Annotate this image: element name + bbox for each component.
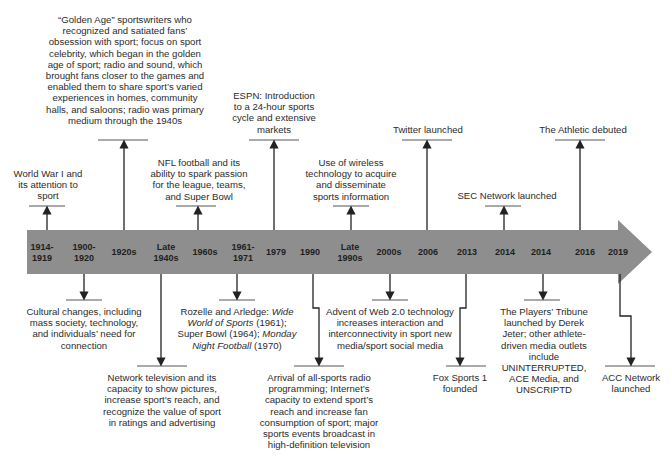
event-twitter: Twitter launched [385, 124, 471, 135]
year-label: 1990 [296, 247, 324, 258]
event-nfl: NFL football and its ability to spark pa… [148, 157, 250, 202]
year-label: 2019 [604, 247, 632, 258]
event-the-athletic: The Athletic debuted [530, 124, 636, 135]
event-players-tribune: The Players’ Tribune launched by Derek J… [500, 306, 588, 396]
year-label: 2014 [527, 247, 555, 258]
event-espn: ESPN: Introduction to a 24-hour sports c… [228, 90, 320, 135]
year-label: 2006 [414, 247, 442, 258]
arrow-down-icon [313, 274, 319, 362]
year-label: Late 1990s [335, 242, 365, 263]
year-label: 1961- 1971 [229, 242, 257, 263]
year-label: Late 1940s [151, 242, 181, 263]
event-acc-network: ACC Network launched [600, 372, 662, 394]
event-ww1: World War I and its attention to sport [10, 168, 86, 202]
year-label: 1920s [108, 247, 140, 258]
event-network-tv: Network television and its capacity to s… [100, 372, 224, 428]
year-label: 2000s [373, 247, 405, 258]
arrow-down-icon [460, 274, 466, 362]
event-wireless: Use of wireless technology to acquire an… [303, 157, 399, 202]
event-sec-network: SEC Network launched [447, 190, 567, 201]
year-label: 2014 [491, 247, 519, 258]
year-label: 2013 [453, 247, 481, 258]
event-rozelle-arledge: Rozelle and Arledge: Wide World of Sport… [176, 306, 298, 351]
event-all-sports-radio: Arrival of all-sports radio programming;… [258, 372, 380, 450]
year-label: 2016 [571, 247, 599, 258]
year-label: 1900- 1920 [70, 242, 98, 263]
event-golden-age: “Golden Age” sportswriters who recognize… [40, 14, 210, 126]
event-fox-sports-1: Fox Sports 1 founded [430, 372, 490, 394]
event-web2: Advent of Web 2.0 technology increases i… [326, 306, 454, 351]
year-label: 1979 [262, 247, 290, 258]
event-cultural-changes: Cultural changes, including mass society… [22, 306, 146, 351]
year-label: 1960s [189, 247, 221, 258]
year-label: 1914- 1919 [28, 242, 56, 263]
arrow-down-icon [620, 274, 631, 362]
